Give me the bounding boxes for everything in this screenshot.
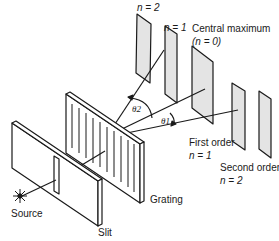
label-source: Source [11,208,43,219]
source-icon [13,189,27,203]
grating-side [140,142,144,203]
label-n1-top: n = 1 [164,22,187,33]
screen-n2-lower [259,91,271,158]
diagram-drawing [0,0,279,241]
screen-central [192,46,213,124]
label-theta1: θ1 [161,116,170,127]
label-first-order-n: n = 1 [189,150,212,161]
label-second-order-n: n = 2 [220,175,243,186]
label-n2-top: n = 2 [137,2,160,13]
screen-n1-upper [165,26,177,103]
slit-side [98,179,102,226]
label-theta2: θ2 [132,104,141,115]
label-grating: Grating [150,194,183,205]
label-central-maximum: Central maximum [192,23,270,34]
label-first-order: First order [189,137,235,148]
slit-opening [54,156,59,194]
label-second-order: Second order [220,162,279,173]
diffraction-diagram: n = 2 n = 1 Central maximum (n = 0) θ2 θ… [0,0,279,241]
label-central-maximum-n: (n = 0) [192,36,221,47]
label-slit: Slit [98,227,112,238]
